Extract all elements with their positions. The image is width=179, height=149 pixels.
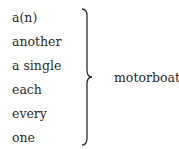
list-item: a(n) <box>12 11 37 25</box>
list-item: another <box>12 35 61 49</box>
list-item: a single <box>12 59 61 73</box>
list-item: each <box>12 83 42 97</box>
noun-label: motorboat <box>114 71 179 85</box>
curly-brace-icon <box>80 8 94 146</box>
list-item: one <box>12 131 35 145</box>
list-item: every <box>12 107 47 121</box>
